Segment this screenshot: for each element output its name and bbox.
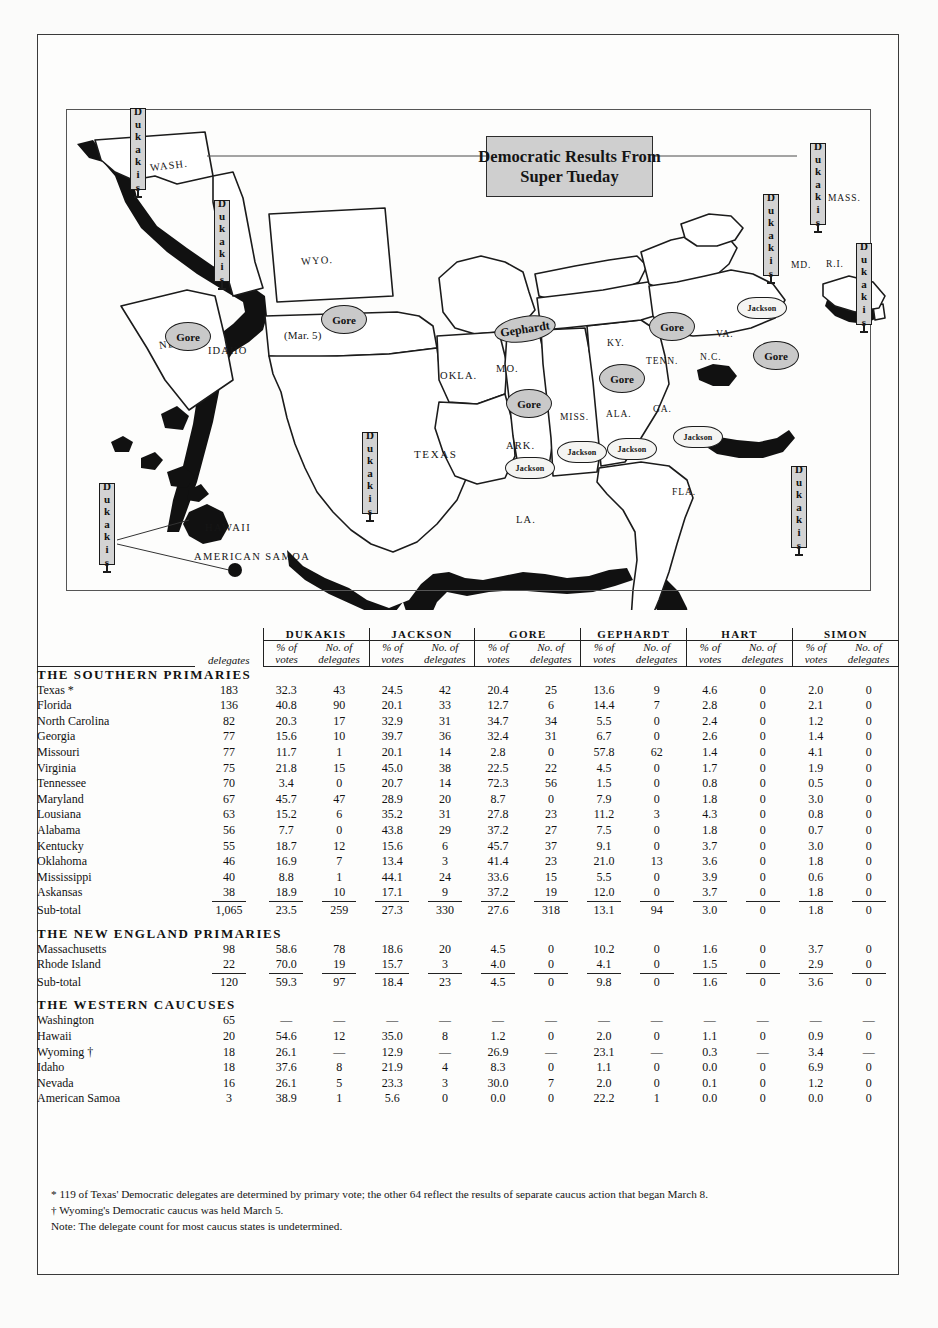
cell-pct-votes: 4.3 <box>687 807 733 823</box>
cell-num-delegates: 8 <box>415 1029 475 1045</box>
footnote-dagger: † Wyoming's Democratic caucus was held M… <box>51 1202 881 1218</box>
map-label-rhode-island: R.I. <box>826 259 844 269</box>
candidate-header-jackson: JACKSON <box>369 628 475 641</box>
cell-num-delegates: 7 <box>627 698 687 714</box>
cell-pct-votes: 1.9 <box>793 761 839 777</box>
cell-num-delegates: 15 <box>309 761 369 777</box>
map-label-mississippi: MISS. <box>560 412 589 422</box>
cell-total-delegates: 70 <box>195 776 263 792</box>
cell-num-delegates: 22 <box>521 761 581 777</box>
cell-num-delegates: 20 <box>415 942 475 958</box>
cell-num-delegates: 0 <box>521 975 581 991</box>
map-label-louisiana: LA. <box>516 514 536 525</box>
subheader-delegates-gore: delegates <box>521 653 581 666</box>
table-header: DUKAKIS JACKSON GORE GEPHARDT HART SIMON… <box>37 628 899 666</box>
cell-total-delegates: 183 <box>195 683 263 699</box>
cell-num-delegates: 0 <box>733 729 793 745</box>
cell-num-delegates: 0 <box>521 1029 581 1045</box>
cell-num-delegates: 0 <box>521 1091 581 1107</box>
candidate-header-simon: SIMON <box>793 628 899 641</box>
cell-num-delegates: 1 <box>627 1091 687 1107</box>
cell-num-delegates: — <box>415 1045 475 1061</box>
cell-pct-votes: 1.5 <box>581 776 627 792</box>
cell-pct-votes: 33.6 <box>475 870 521 886</box>
cell-num-delegates: 0 <box>627 870 687 886</box>
cell-state-name: Texas * <box>37 683 195 699</box>
map-label-arkansas: ARK. <box>506 440 535 451</box>
banner-stem-cap <box>860 331 868 333</box>
cell-num-delegates: 0 <box>521 745 581 761</box>
cell-total-delegates: 18 <box>195 1060 263 1076</box>
cell-num-delegates: 20 <box>415 792 475 808</box>
cell-num-delegates: — <box>627 1013 687 1029</box>
cell-num-delegates: 31 <box>521 729 581 745</box>
cell-pct-votes: 23.3 <box>369 1076 415 1092</box>
cell-pct-votes: 1.6 <box>687 975 733 991</box>
cell-total-delegates: 77 <box>195 729 263 745</box>
cell-num-delegates: 0 <box>839 1091 899 1107</box>
cell-num-delegates: 0 <box>627 1076 687 1092</box>
cell-num-delegates: 24 <box>415 870 475 886</box>
winner-marker-oklahoma: Gore <box>506 389 552 418</box>
map-label-alabama: ALA. <box>606 409 632 419</box>
cell-pct-votes: 18.6 <box>369 942 415 958</box>
cell-num-delegates: 42 <box>415 683 475 699</box>
subheader-delegates-jackson: delegates <box>415 653 475 666</box>
cell-pct-votes: 7.5 <box>581 823 627 839</box>
cell-pct-votes: 59.3 <box>263 975 309 991</box>
subheader-bottom-row: delegates votes delegates votes delegate… <box>37 653 899 666</box>
cell-pct-votes: 37.6 <box>263 1060 309 1076</box>
cell-num-delegates: 38 <box>415 761 475 777</box>
map-label-american-samoa: AMERICAN SAMOA <box>194 551 310 562</box>
cell-pct-votes: 2.9 <box>793 957 839 973</box>
cell-pct-votes: 5.6 <box>369 1091 415 1107</box>
cell-pct-votes: 11.2 <box>581 807 627 823</box>
winner-marker-georgia: Jackson <box>673 426 723 448</box>
cell-pct-votes: 38.9 <box>263 1091 309 1107</box>
cell-num-delegates: 330 <box>415 903 475 919</box>
cell-state-name: Idaho <box>37 1060 195 1076</box>
subheader-del-gephardt: No. of <box>627 641 687 654</box>
cell-pct-votes: 1.2 <box>475 1029 521 1045</box>
cell-num-delegates: 7 <box>309 854 369 870</box>
cell-num-delegates: 0 <box>627 1060 687 1076</box>
table-row: Washington65———————————— <box>37 1013 899 1029</box>
winner-marker-alabama: Jackson <box>607 438 657 460</box>
cell-pct-votes: 9.8 <box>581 975 627 991</box>
section-heading: THE SOUTHERN PRIMARIES <box>37 666 899 683</box>
winner-banner-maryland: Dukakis <box>763 194 779 276</box>
subheader-pct-simon: % of <box>793 641 839 654</box>
cell-num-delegates: 0 <box>839 745 899 761</box>
cell-num-delegates: 15 <box>521 870 581 886</box>
cell-pct-votes: 18.4 <box>369 975 415 991</box>
cell-num-delegates: 31 <box>415 807 475 823</box>
winner-banner-idaho: Dukakis <box>214 200 230 282</box>
map-label-oklahoma: OKLA. <box>440 370 477 381</box>
cell-num-delegates: 78 <box>309 942 369 958</box>
cell-num-delegates: 19 <box>521 885 581 901</box>
cell-pct-votes: 41.4 <box>475 854 521 870</box>
cell-num-delegates: 0 <box>839 807 899 823</box>
subheader-votes-jackson: votes <box>369 653 415 666</box>
table-row: American Samoa338.915.600.0022.210.000.0… <box>37 1091 899 1107</box>
table-row: Nevada1626.1523.3330.072.000.101.20 <box>37 1076 899 1092</box>
cell-pct-votes: 0.9 <box>793 1029 839 1045</box>
cell-num-delegates: 0 <box>733 1029 793 1045</box>
results-table: DUKAKIS JACKSON GORE GEPHARDT HART SIMON… <box>37 628 899 1114</box>
winner-banner-massachusetts: Dukakis <box>810 143 826 225</box>
cell-num-delegates: 14 <box>415 776 475 792</box>
cell-pct-votes: 3.9 <box>687 870 733 886</box>
subheader-pct-hart: % of <box>687 641 733 654</box>
map-label-florida: FLA. <box>672 487 696 497</box>
subtotal-row: Sub-total12059.39718.4234.509.801.603.60 <box>37 975 899 991</box>
cell-num-delegates: 0 <box>627 714 687 730</box>
table-row: Idaho1837.6821.948.301.100.006.90 <box>37 1060 899 1076</box>
cell-pct-votes: 23.1 <box>581 1045 627 1061</box>
cell-total-delegates: 75 <box>195 761 263 777</box>
cell-pct-votes: 13.1 <box>581 903 627 919</box>
cell-num-delegates: — <box>415 1013 475 1029</box>
cell-num-delegates: 1 <box>309 1091 369 1107</box>
subheader-votes-simon: votes <box>793 653 839 666</box>
cell-pct-votes: 0.8 <box>687 776 733 792</box>
cell-pct-votes: 2.8 <box>687 698 733 714</box>
